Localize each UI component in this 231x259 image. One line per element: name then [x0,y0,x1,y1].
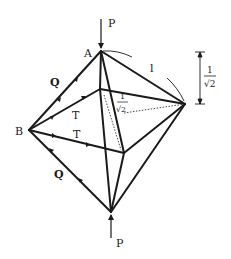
svg-text:1: 1 [120,92,125,101]
lower-t-label: T [73,128,81,141]
vertex-a-label: A [83,47,93,60]
edge-length-label: l [150,62,154,75]
edge-a-c [100,51,101,89]
edge-c-d [100,89,111,212]
angle-arcs [103,51,184,101]
octahedron-diagram: P P A B Q Q T T l 1 √2 1 √2 [0,0,231,259]
diagram-canvas: P P A B Q Q T T l 1 √2 1 √2 [0,0,231,259]
bottom-force-label: P [116,237,124,250]
svg-text:1: 1 [207,65,213,75]
edge-b-c [29,89,100,130]
svg-text:√2: √2 [204,79,215,89]
edge-a-b [29,51,101,130]
vertex-b-label: B [15,125,23,138]
edge-b-d [29,130,111,212]
top-force-label: P [108,17,116,30]
lower-q-label: Q [54,168,64,181]
inner-fraction: 1 √2 [116,92,128,114]
upper-q-label: Q [50,76,60,89]
upper-t-label: T [72,109,80,122]
svg-text:√2: √2 [116,105,126,114]
dimension-fraction: 1 √2 [204,65,216,89]
dimension-marker [195,52,205,104]
